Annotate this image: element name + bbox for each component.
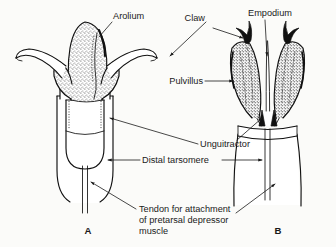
panel-label-a: A xyxy=(85,225,92,236)
label-distal-tarsomere: Distal tarsomere xyxy=(142,155,209,165)
label-claw: Claw xyxy=(185,13,206,23)
b-pulvillus-left xyxy=(230,42,260,118)
label-tendon-line2: of pretarsal depressor xyxy=(139,215,228,225)
label-pulvillus: Pulvillus xyxy=(169,76,203,86)
label-empodium: Empodium xyxy=(248,8,292,18)
b-claw-right xyxy=(283,21,299,44)
panel-b-drawing xyxy=(230,21,304,206)
label-tendon-line3: muscle xyxy=(139,226,168,236)
pretarsus-figure: Arolium Claw Empodium Pulvillus Unguitra… xyxy=(0,0,336,247)
leader-claw xyxy=(170,22,206,56)
a-unguitractor xyxy=(66,100,104,170)
leader-empodium xyxy=(265,20,267,56)
a-claw-left xyxy=(16,49,66,78)
leader-arolium xyxy=(99,22,112,37)
label-unguitractor: Unguitractor xyxy=(200,139,250,149)
leader-unguitractor-a xyxy=(110,118,198,144)
label-arolium: Arolium xyxy=(113,11,144,21)
a-claw-right xyxy=(107,49,157,78)
panel-a-drawing xyxy=(16,22,157,213)
label-tendon-line1: Tendon for attachment xyxy=(139,204,231,214)
b-pulvillus-right xyxy=(274,42,304,118)
b-claw-left xyxy=(236,21,252,44)
panel-label-b: B xyxy=(275,225,282,236)
b-empodium xyxy=(265,40,270,111)
b-joint-band xyxy=(238,126,297,140)
